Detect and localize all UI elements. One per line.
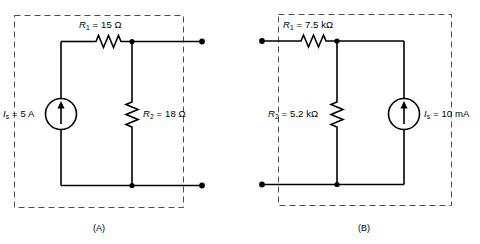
label-r1-a-var: R — [79, 19, 86, 30]
label-r2-b-eq: = — [279, 108, 290, 119]
label-r1-b: R1 = 7.5 kΩ — [283, 19, 333, 31]
label-source-b-eq: = — [430, 108, 441, 119]
label-source-a-value: 5 A — [20, 108, 35, 119]
circuit-b-group: R1 = 7.5 kΩ R2 = 5.2 kΩ Is = 10 mA (B) — [259, 15, 470, 234]
resistor-r1-a-symbol — [93, 36, 124, 48]
resistor-r1-b-symbol — [298, 35, 329, 47]
caption-b: (B) — [358, 223, 370, 233]
resistor-r2-a-symbol — [126, 99, 138, 130]
circuit-a-group: R1 = 15 Ω R2 = 18 Ω Is = 5 A (A) — [3, 16, 205, 234]
label-r2-a-var: R — [143, 108, 150, 119]
label-source-b: Is = 10 mA — [424, 108, 470, 120]
label-r1-a-value: 15 Ω — [101, 19, 122, 30]
terminal-b-top — [259, 38, 265, 44]
node-b-top — [334, 38, 339, 43]
label-source-a: Is = 5 A — [3, 108, 35, 120]
caption-a: (A) — [93, 223, 105, 233]
terminal-a-bottom — [199, 183, 205, 189]
circuit-figure: R1 = 15 Ω R2 = 18 Ω Is = 5 A (A) — [0, 0, 480, 244]
terminal-b-bottom — [259, 182, 265, 188]
label-source-b-value: 10 mA — [441, 108, 470, 119]
label-r2-b-var: R — [268, 108, 275, 119]
label-r1-a-eq: = — [90, 19, 101, 30]
label-r1-b-eq: = — [294, 19, 305, 30]
resistor-r2-b-symbol — [331, 99, 343, 130]
label-source-a-eq: = — [9, 108, 20, 119]
circuit-diagram-canvas: R1 = 15 Ω R2 = 18 Ω Is = 5 A (A) — [0, 0, 480, 244]
label-r2-b: R2 = 5.2 kΩ — [268, 108, 318, 120]
label-r1-b-var: R — [283, 19, 290, 30]
node-a-top — [129, 39, 134, 44]
terminal-a-top — [199, 39, 205, 45]
label-r2-a-value: 18 Ω — [165, 108, 186, 119]
label-r2-b-value: 5.2 kΩ — [290, 108, 318, 119]
node-a-bottom — [129, 183, 134, 188]
label-r2-a-eq: = — [154, 108, 165, 119]
label-r1-a: R1 = 15 Ω — [79, 19, 122, 31]
label-r1-b-value: 7.5 kΩ — [305, 19, 333, 30]
label-r2-a: R2 = 18 Ω — [143, 108, 186, 120]
node-b-bottom — [334, 182, 339, 187]
